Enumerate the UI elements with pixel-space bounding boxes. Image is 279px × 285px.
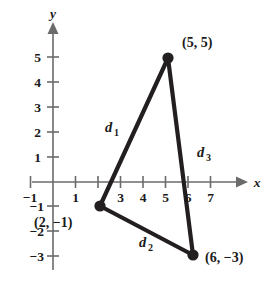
distance-label-d2-subscript: 2 (148, 242, 153, 253)
distance-label-d3: d 3 (197, 144, 211, 163)
y-tick-label-4: 4 (34, 75, 41, 90)
x-tick-label-1: 1 (72, 190, 79, 205)
distance-label-d2-base: d (139, 234, 147, 250)
x-tick-label-6: 6 (185, 190, 192, 205)
figure-svg: 5 4 3 2 1 −1 −2 −3 −1 1 3 4 5 6 7 x y (5… (0, 0, 279, 285)
x-tick-label-4: 4 (140, 190, 147, 205)
vertex-dot-5-5 (162, 52, 173, 63)
distance-label-d2: d 2 (139, 234, 153, 253)
y-tick-label-5: 5 (34, 50, 41, 65)
x-tick-label-5: 5 (162, 190, 169, 205)
y-axis-label: y (48, 6, 57, 21)
distance-label-d1-base: d (105, 119, 113, 135)
y-tick-label-3: 3 (34, 100, 41, 115)
distance-label-d1: d 1 (105, 119, 119, 138)
y-tick-label--3: −3 (30, 249, 45, 264)
triangle-group (100, 58, 193, 255)
point-label-2--1: (2, −1) (34, 215, 73, 231)
x-tick-label-7: 7 (207, 190, 214, 205)
y-tick-label-2: 2 (34, 125, 41, 140)
x-tick-labels: −1 1 3 4 5 6 7 (23, 190, 214, 205)
y-tick-label-1: 1 (34, 150, 41, 165)
point-label-6--3: (6, −3) (205, 250, 244, 266)
segment-d2 (100, 206, 193, 255)
vertex-dot-6--3 (187, 249, 198, 260)
segment-d3 (168, 58, 193, 255)
y-axis-arrow-icon (48, 22, 59, 34)
distance-label-d3-subscript: 3 (206, 152, 211, 163)
x-axis-arrow-icon (236, 177, 248, 188)
vertex-dot-2--1 (94, 200, 105, 211)
coordinate-plane-figure: 5 4 3 2 1 −1 −2 −3 −1 1 3 4 5 6 7 x y (5… (0, 0, 279, 285)
point-label-5-5: (5, 5) (182, 35, 213, 51)
axes-group (32, 22, 248, 270)
x-tick-label--1: −1 (23, 190, 38, 205)
distance-label-d1-subscript: 1 (114, 127, 119, 138)
distance-label-d3-base: d (197, 144, 205, 160)
x-tick-label-3: 3 (117, 190, 124, 205)
y-tick-labels: 5 4 3 2 1 −1 −2 −3 (30, 50, 45, 264)
x-axis-label: x (253, 175, 261, 190)
